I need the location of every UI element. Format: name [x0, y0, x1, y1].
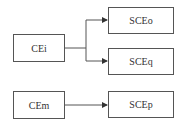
node-label: CEm	[29, 100, 50, 111]
node-label: SCEo	[129, 15, 152, 26]
node-cem: CEm	[13, 91, 65, 119]
edge-cei-sceo	[65, 20, 107, 48]
node-label: CEi	[31, 43, 47, 54]
node-label: SCEq	[129, 56, 152, 67]
node-cei: CEi	[13, 34, 65, 62]
edge-cei-sceq	[86, 48, 107, 61]
node-scep: SCEp	[108, 91, 174, 118]
node-sceo: SCEo	[108, 7, 174, 34]
node-sceq: SCEq	[108, 48, 174, 75]
node-label: SCEp	[129, 99, 152, 110]
